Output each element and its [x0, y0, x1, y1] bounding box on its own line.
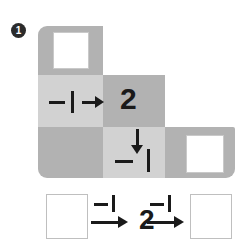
- grid-known-value: 2: [120, 84, 137, 114]
- operator-minus-one-right-arrow: [45, 88, 103, 114]
- answer-box-right[interactable]: [186, 135, 224, 173]
- minus-sign-icon: [94, 203, 108, 206]
- right-arrow-head-icon: [118, 216, 128, 228]
- sequence-row: 2: [46, 192, 232, 240]
- down-arrow-head-icon: [131, 145, 143, 154]
- minus-sign-icon: [150, 203, 164, 206]
- digit-one-glyph: [71, 91, 74, 113]
- right-arrow-head-icon: [174, 216, 184, 228]
- minus-sign-icon: [49, 101, 65, 104]
- digit-one-glyph: [112, 195, 115, 212]
- right-arrow-head-icon: [95, 96, 104, 108]
- problem-number-bullet: 1: [11, 23, 26, 38]
- digit-one-glyph: [147, 149, 150, 172]
- answer-box-top[interactable]: [53, 32, 89, 69]
- digit-one-glyph: [168, 195, 171, 212]
- operator-minus-one-down-arrow: [105, 127, 165, 178]
- grid-cell-r2c0: [38, 127, 103, 178]
- sequence-start-box[interactable]: [46, 194, 88, 239]
- grid-puzzle: 2: [38, 26, 235, 178]
- sequence-end-box[interactable]: [190, 194, 232, 239]
- sequence-arrow-minus-one-second: [146, 194, 192, 238]
- minus-sign-icon: [115, 160, 133, 163]
- sequence-arrow-minus-one-first: [90, 194, 136, 238]
